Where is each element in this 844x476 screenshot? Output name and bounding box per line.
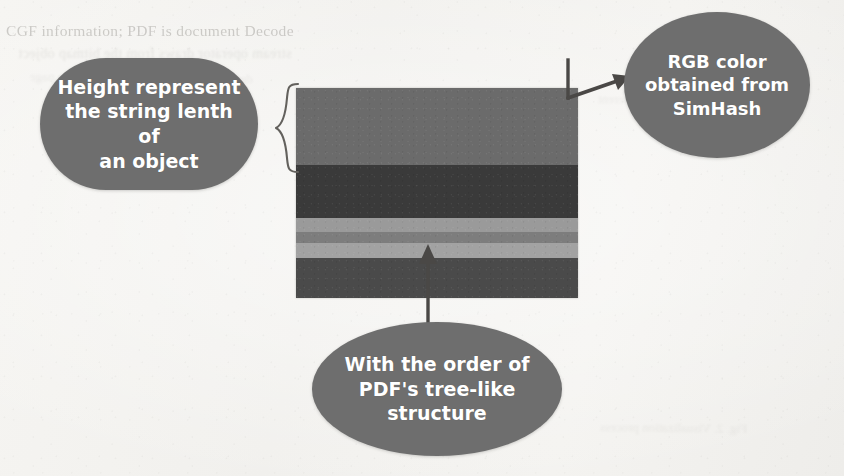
order-callout-bubble[interactable]: With the order of PDF's tree-like struct… <box>312 322 562 456</box>
rgb-callout-line-1: RGB color <box>667 51 766 72</box>
figure-canvas: CGF information; PDF is document Decode … <box>0 0 844 476</box>
order-callout-line-3: structure <box>387 402 486 424</box>
rgb-callout-line-3: SimHash <box>673 98 762 119</box>
curly-brace-icon <box>258 82 300 174</box>
color-band-1 <box>296 88 578 165</box>
order-callout-line-2: PDF's tree-like <box>359 378 516 400</box>
order-callout-label: With the order of PDF's tree-like struct… <box>330 352 543 426</box>
rgb-callout-label: RGB color obtained from SimHash <box>631 50 803 120</box>
height-callout-bubble[interactable]: Height represent the string lenth of an … <box>40 58 258 190</box>
background-text-line-1: CGF information; PDF is document Decode <box>6 22 294 40</box>
color-band-6 <box>296 258 578 298</box>
height-callout-line-3: an object <box>99 150 198 172</box>
pdf-object-color-bar <box>296 88 578 298</box>
height-callout-line-2: the string lenth of <box>65 100 233 147</box>
rgb-callout-line-2: obtained from <box>645 74 789 95</box>
color-band-4 <box>296 232 578 243</box>
background-text-line-5: Fig. 2. Visualization process <box>600 419 748 437</box>
color-band-3 <box>296 218 578 232</box>
height-callout-line-1: Height represent <box>57 76 240 98</box>
height-callout-label: Height represent the string lenth of an … <box>40 75 258 174</box>
color-band-2 <box>296 165 578 218</box>
rgb-callout-bubble[interactable]: RGB color obtained from SimHash <box>624 12 810 158</box>
order-callout-line-1: With the order of <box>344 353 529 375</box>
color-band-5 <box>296 243 578 258</box>
